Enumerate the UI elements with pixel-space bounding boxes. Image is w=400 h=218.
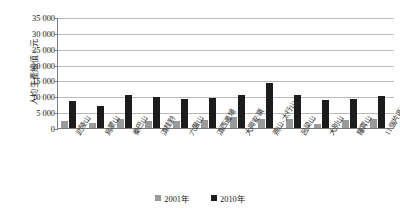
bar-group xyxy=(198,18,226,128)
y-axis-tick-mark xyxy=(55,129,58,130)
legend-item: 2010年 xyxy=(211,192,245,204)
bar-2010 xyxy=(153,97,160,128)
legend-label: 2001年 xyxy=(164,192,189,204)
bar-group xyxy=(86,18,114,128)
y-axis-tick-label: 35 000 xyxy=(12,14,55,23)
y-axis-tick-label: 20 000 xyxy=(12,61,55,70)
y-axis-tick-label: 10 000 xyxy=(12,93,55,102)
chart-legend: 2001年2010年 xyxy=(0,192,400,204)
bar-2010 xyxy=(97,106,104,128)
bar-group xyxy=(114,18,142,128)
bar-2010 xyxy=(125,95,132,128)
bar-group xyxy=(339,18,367,128)
bar-2010 xyxy=(238,95,245,128)
legend-item: 2001年 xyxy=(155,192,189,204)
bar-2010 xyxy=(294,95,301,128)
bar-2001 xyxy=(314,124,321,128)
y-axis-tick-label: 15 000 xyxy=(12,77,55,86)
y-axis-tick-labels: 35 00030 00025 00020 00015 00010 0005 00… xyxy=(12,12,55,130)
y-axis-tick-label: 25 000 xyxy=(12,45,55,54)
legend-swatch xyxy=(211,195,217,201)
bar-2010 xyxy=(209,98,216,128)
y-axis-tick-label: 30 000 xyxy=(12,29,55,38)
bar-chart: 人均生產總值 / 元 35 00030 00025 00020 00015 00… xyxy=(0,0,400,218)
bar-2010 xyxy=(266,83,273,128)
bar-2010 xyxy=(350,99,357,128)
y-axis-tick-label: 0 xyxy=(12,125,55,134)
bar-group xyxy=(58,18,86,128)
bar-2010 xyxy=(181,99,188,128)
bar-group xyxy=(311,18,339,128)
bar-2001 xyxy=(61,121,68,128)
x-axis-tick-labels: 武陵山烏蒙山秦巴山滇桂黔六盤山滇西邊境大興安嶺燕山-太行山呂梁山大別山羅霄山11… xyxy=(57,131,394,189)
bar-2010 xyxy=(322,100,329,128)
legend-swatch xyxy=(155,195,161,201)
bar-group xyxy=(142,18,170,128)
bar-2010 xyxy=(378,96,385,128)
bar-2001 xyxy=(89,123,96,128)
bar-group xyxy=(170,18,198,128)
y-axis-tick-label: 5 000 xyxy=(12,109,55,118)
bar-group xyxy=(367,18,395,128)
legend-label: 2010年 xyxy=(220,192,245,204)
